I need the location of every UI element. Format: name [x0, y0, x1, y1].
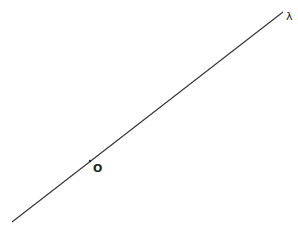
line-label: λ: [286, 10, 293, 23]
line-lambda: [12, 12, 283, 222]
geometry-diagram: λ O: [0, 0, 298, 229]
point-label: O: [93, 162, 102, 175]
point-o-marker: [89, 160, 91, 162]
